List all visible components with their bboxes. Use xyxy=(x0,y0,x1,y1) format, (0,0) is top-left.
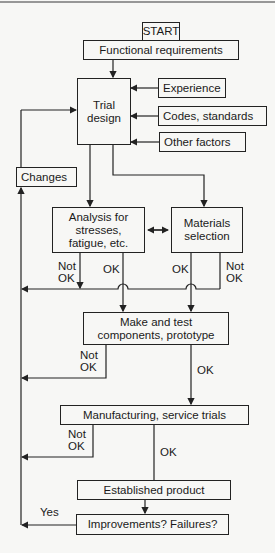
improvements-label: Improvements? Failures? xyxy=(88,518,218,531)
codes-standards-node: Codes, standards xyxy=(158,106,267,126)
established-product-node: Established product xyxy=(77,480,231,500)
start-label: START xyxy=(143,25,180,38)
make-test-node: Make and test components, prototype xyxy=(83,312,229,345)
experience-node: Experience xyxy=(158,78,226,98)
materials-ok-label: OK xyxy=(172,263,189,275)
analysis-not-ok-label: Not OK xyxy=(58,260,82,284)
make-ok-label: OK xyxy=(197,364,214,376)
make-not-ok-label: Not OK xyxy=(80,349,104,373)
manufacturing-not-ok-label: Not OK xyxy=(68,428,92,452)
functional-requirements-node: Functional requirements xyxy=(83,40,239,60)
trial-design-label: Trial design xyxy=(84,99,124,125)
make-test-label: Make and test components, prototype xyxy=(90,316,222,342)
improvements-yes-label: Yes xyxy=(40,506,59,518)
analysis-ok-label: OK xyxy=(103,263,120,275)
functional-requirements-label: Functional requirements xyxy=(99,44,222,57)
materials-selection-node: Materials selection xyxy=(171,207,243,253)
start-node: START xyxy=(142,22,180,41)
codes-standards-label: Codes, standards xyxy=(163,110,253,123)
other-factors-node: Other factors xyxy=(159,132,246,152)
improvements-node: Improvements? Failures? xyxy=(76,514,229,535)
other-factors-label: Other factors xyxy=(164,136,230,149)
changes-node: Changes xyxy=(16,167,77,187)
experience-label: Experience xyxy=(163,82,221,95)
materials-selection-label: Materials selection xyxy=(180,217,234,243)
trial-design-node: Trial design xyxy=(77,78,131,145)
manufacturing-node: Manufacturing, service trials xyxy=(60,405,249,425)
manufacturing-label: Manufacturing, service trials xyxy=(83,409,226,422)
manufacturing-ok-label: OK xyxy=(160,446,177,458)
analysis-node: Analysis for stresses, fatigue, etc. xyxy=(52,207,145,253)
changes-label: Changes xyxy=(21,171,67,184)
materials-not-ok-label: Not OK xyxy=(226,260,250,284)
established-product-label: Established product xyxy=(103,484,204,497)
analysis-label: Analysis for stresses, fatigue, etc. xyxy=(63,211,134,250)
